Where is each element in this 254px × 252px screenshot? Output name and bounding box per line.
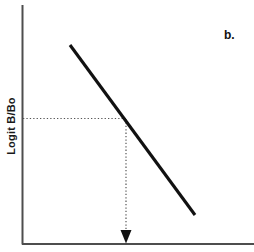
figure-panel-b: Logit B/Bo b. <box>0 0 254 252</box>
standard-curve-line <box>70 45 195 215</box>
panel-label: b. <box>224 28 235 42</box>
down-arrowhead-icon <box>121 230 132 244</box>
plot-area <box>0 0 254 252</box>
